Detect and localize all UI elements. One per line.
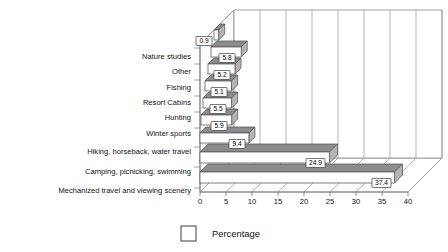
xtick-label: 40 — [404, 197, 412, 206]
value-label-text: 0.9 — [199, 37, 208, 44]
bar-group — [200, 127, 255, 143]
value-label-text: 5.8 — [222, 54, 231, 61]
value-label: 37.4 — [372, 179, 391, 188]
value-label: 5.1 — [211, 88, 227, 97]
value-label: 24.9 — [306, 159, 325, 168]
category-label-hunting: Hunting — [165, 113, 191, 122]
value-label-text: 37.4 — [375, 179, 388, 186]
legend-label-percentage: Percentage — [212, 228, 260, 239]
value-label: 5.8 — [219, 54, 235, 63]
chart-legend[interactable]: Percentage — [181, 226, 260, 241]
value-label-text: 5.1 — [214, 88, 223, 95]
category-label-fishing: Fishing — [167, 83, 191, 92]
category-label-other: Other — [172, 67, 191, 76]
value-axis: 0 5 10 15 20 25 30 35 40 — [198, 192, 412, 206]
value-label: 5.9 — [211, 122, 227, 131]
value-label: 5.2 — [214, 71, 230, 80]
bar-chart: 0.9 5.8 5.2 5.1 5.5 5.9 — [0, 0, 448, 252]
category-axis — [194, 44, 200, 192]
legend-swatch-percentage — [181, 226, 196, 241]
xtick-label: 35 — [378, 197, 386, 206]
category-label-hiking: Hiking, horseback, water travel — [87, 147, 191, 156]
value-label: 5.5 — [210, 105, 226, 114]
value-label-text: 24.9 — [309, 159, 322, 166]
category-label-mechanized-travel: Mechanized travel and viewing scenery — [58, 186, 191, 195]
chart-container: 0.9 5.8 5.2 5.1 5.5 5.9 — [0, 0, 448, 252]
value-label-text: 5.2 — [217, 71, 226, 78]
xtick-label: 0 — [198, 197, 202, 206]
category-label-nature-studies: Nature studies — [142, 52, 191, 61]
xtick-label: 20 — [300, 197, 308, 206]
value-label-text: 9.4 — [232, 140, 241, 147]
xtick-label: 30 — [352, 197, 360, 206]
xtick-label: 10 — [248, 197, 256, 206]
xtick-label: 25 — [326, 197, 334, 206]
value-label: 9.4 — [229, 140, 245, 149]
xtick-label: 5 — [224, 197, 228, 206]
value-label-text: 5.5 — [213, 105, 222, 112]
value-label-text: 5.9 — [214, 122, 223, 129]
category-label-resort-cabins: Resort Cabins — [143, 98, 191, 107]
value-label: 0.9 — [196, 37, 212, 46]
category-label-winter-sports: Winter sports — [146, 129, 191, 138]
category-label-camping: Camping, picnicking, swimming — [85, 167, 191, 176]
xtick-label: 15 — [274, 197, 282, 206]
category-labels: Nature studies Other Fishing Resort Cabi… — [58, 52, 191, 195]
